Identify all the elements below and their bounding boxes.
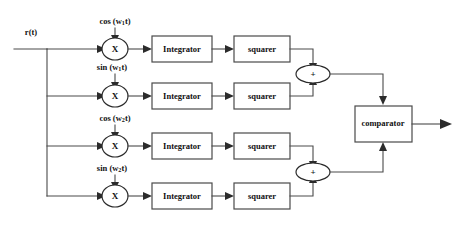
multiplier-3-label: X (112, 141, 119, 151)
integrator-label-4: Integrator (163, 191, 201, 201)
integrator-label-3: Integrator (163, 141, 201, 151)
adder-lower-to-comparator-wire (330, 150, 383, 172)
fsk-demodulator-diagram: r(t) cos (w1t) sin (w1t) cos (w2t) sin (… (0, 0, 470, 227)
int-sq-arrow-4 (225, 192, 234, 200)
int-sq-arrow-3 (225, 142, 234, 150)
int-sq-arrow-1 (225, 45, 234, 53)
mult-int-arrow-2 (143, 92, 152, 100)
carrier-label-sin-w2: sin (w2t) (97, 163, 127, 173)
mult-int-arrow-1 (143, 45, 152, 53)
sq-adder-wire-1 (290, 49, 313, 64)
comparator-label: comparator (362, 118, 405, 128)
mult-int-arrow-4 (143, 192, 152, 200)
output-arrow (440, 119, 452, 129)
mult-int-arrow-3 (143, 142, 152, 150)
sq-adder-wire-4 (290, 182, 313, 196)
multiplier-2-label: X (112, 91, 119, 101)
squarer-label-2: squarer (248, 91, 276, 101)
squarer-label-1: squarer (248, 44, 276, 54)
adder-lower-to-comparator-arrow (379, 142, 387, 151)
multiplier-4-label: X (112, 191, 119, 201)
adder-upper-label: + (310, 69, 315, 79)
carrier-label-sin-w1: sin (w1t) (97, 62, 127, 72)
multiplier-1-label: X (112, 44, 119, 54)
carrier-label-cos-w1: cos (w1t) (99, 16, 130, 26)
sq-adder-wire-2 (290, 84, 313, 96)
diagram-canvas: r(t) cos (w1t) sin (w1t) cos (w2t) sin (… (0, 0, 470, 227)
adder-upper-to-comparator-arrow (379, 96, 387, 105)
sq-adder-wire-3 (290, 146, 313, 162)
int-sq-arrow-2 (225, 92, 234, 100)
input-signal-label: r(t) (25, 27, 37, 37)
adder-upper-to-comparator-wire (330, 74, 383, 97)
adder-lower-label: + (310, 167, 315, 177)
carrier-label-cos-w2: cos (w2t) (99, 113, 130, 123)
integrator-label-1: Integrator (163, 44, 201, 54)
squarer-label-4: squarer (248, 191, 276, 201)
integrator-label-2: Integrator (163, 91, 201, 101)
squarer-label-3: squarer (248, 141, 276, 151)
